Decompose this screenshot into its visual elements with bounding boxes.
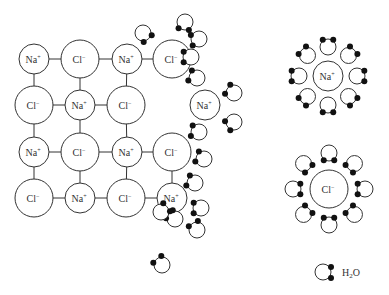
water-molecule bbox=[341, 44, 361, 64]
sodium-ion: Na+ bbox=[65, 183, 95, 213]
sodium-ion: Na+ bbox=[65, 90, 95, 120]
water-molecule bbox=[296, 156, 316, 176]
water-molecule bbox=[191, 200, 209, 216]
sodium-ion: Na+ bbox=[19, 44, 49, 74]
water-molecule bbox=[135, 25, 155, 45]
water-molecule bbox=[320, 97, 336, 115]
water-molecule bbox=[343, 156, 363, 176]
chloride-ion: Cl− bbox=[61, 133, 99, 171]
water-molecule bbox=[285, 181, 303, 197]
water-molecule bbox=[320, 37, 336, 55]
water-molecule bbox=[192, 149, 212, 167]
water-legend-icon bbox=[315, 264, 334, 281]
water-molecule bbox=[176, 14, 193, 33]
water-molecule bbox=[222, 82, 242, 101]
water-molecule bbox=[183, 173, 203, 191]
water-molecule bbox=[188, 123, 207, 140]
water-molecule bbox=[341, 89, 361, 109]
water-molecule bbox=[355, 181, 373, 197]
water-molecule bbox=[343, 203, 363, 223]
chloride-ion: Cl− bbox=[61, 40, 99, 78]
water-molecule bbox=[321, 215, 337, 233]
water-molecule bbox=[222, 114, 242, 133]
water-molecule bbox=[289, 68, 307, 84]
water-molecule bbox=[349, 68, 367, 84]
hydrated-ions: Na+Cl− bbox=[285, 37, 373, 233]
water-molecule bbox=[185, 68, 205, 86]
sodium-ion: Na+ bbox=[112, 44, 142, 74]
chloride-ion: Cl− bbox=[107, 86, 145, 124]
lattice-ions: Na+Cl−Na+Cl−Cl−Na+Cl−Na+Cl−Na+Cl−Cl−Na+C… bbox=[15, 40, 220, 217]
legend: H2O bbox=[315, 264, 360, 281]
chloride-ion: Cl− bbox=[153, 133, 191, 171]
detaching-sodium-ion: Na+ bbox=[190, 90, 220, 120]
water-molecule bbox=[181, 49, 199, 65]
chloride-ion: Cl− bbox=[107, 179, 145, 217]
water-molecule bbox=[186, 218, 205, 238]
lattice-bonds bbox=[34, 59, 172, 198]
chloride-ion: Cl− bbox=[15, 179, 53, 217]
water-molecule bbox=[296, 89, 316, 109]
water-molecule bbox=[321, 145, 337, 163]
sodium-ion: Na+ bbox=[112, 137, 142, 167]
water-molecule bbox=[188, 31, 207, 48]
water-molecule bbox=[150, 253, 170, 273]
water-molecule bbox=[296, 44, 316, 64]
hydrated-sodium-ion: Na+ bbox=[313, 61, 343, 91]
sodium-ion: Na+ bbox=[19, 137, 49, 167]
water-legend-label: H2O bbox=[342, 267, 360, 280]
hydrated-chloride-ion: Cl− bbox=[310, 170, 348, 208]
chloride-ion: Cl− bbox=[15, 86, 53, 124]
water-molecule bbox=[296, 203, 316, 223]
nacl-dissolution-diagram: Na+Cl−Na+Cl−Cl−Na+Cl−Na+Cl−Na+Cl−Cl−Na+C… bbox=[0, 0, 389, 295]
